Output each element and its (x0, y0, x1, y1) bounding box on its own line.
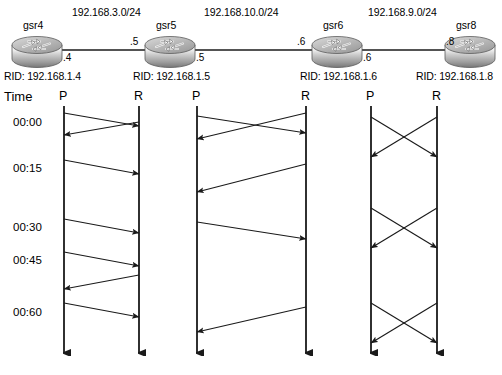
column-header-r-5: R (432, 89, 441, 103)
column-header-p-0: P (59, 89, 67, 103)
message-arrow (64, 219, 139, 233)
message-arrow (197, 307, 306, 332)
time-tick: 00:45 (13, 254, 42, 266)
message-arrow (197, 164, 306, 192)
time-tick: 00:15 (13, 162, 42, 174)
message-arrow (197, 222, 306, 239)
message-arrow (64, 303, 139, 317)
column-header-p-2: P (192, 89, 200, 103)
time-tick: 00:00 (13, 116, 42, 128)
message-arrow (64, 160, 139, 174)
message-arrow (64, 252, 139, 266)
column-header-p-4: P (366, 89, 374, 103)
time-axis-label: Time (4, 89, 32, 104)
time-tick: 00:60 (13, 306, 42, 318)
timing-canvas (0, 0, 502, 375)
message-arrow (197, 113, 306, 139)
column-header-r-3: R (301, 89, 310, 103)
network-timing-diagram: 192.168.3.0/24192.168.10.0/24192.168.9.0… (0, 0, 502, 375)
column-header-r-1: R (134, 89, 143, 103)
message-arrows (64, 113, 437, 343)
message-arrow (64, 122, 139, 135)
time-tick: 00:30 (13, 221, 42, 233)
message-arrow (64, 275, 139, 289)
message-arrow (197, 116, 306, 133)
